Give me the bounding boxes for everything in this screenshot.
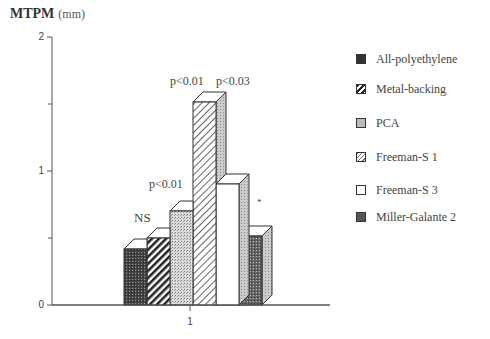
annotation-pca: p<0.01	[149, 177, 183, 192]
legend-item-miller-galante-2: Miller-Galante 2	[356, 209, 456, 223]
swatch-dark-dots-icon	[356, 54, 366, 64]
bar-all-polyethylene	[124, 239, 147, 305]
legend-item-freeman-s3: Freeman-S 3	[356, 182, 438, 196]
annotation-ns: NS	[134, 210, 151, 226]
annotation-fs1: p<0.01	[170, 74, 204, 89]
annotation-fs3: p<0.03	[216, 74, 250, 89]
bar-freeman-s3	[216, 174, 249, 305]
legend-item-freeman-s1: Freeman-S 1	[356, 149, 438, 163]
swatch-medium-dots-icon	[356, 212, 366, 222]
swatch-light-dots-icon	[356, 118, 366, 128]
swatch-hatch-dark-icon	[356, 84, 366, 94]
legend-item-all-polyethylene: All-polyethylene	[356, 51, 457, 65]
bar-pca	[170, 201, 193, 305]
annotation-mg: *	[257, 197, 262, 207]
legend-item-metal-backing: Metal-backing	[356, 81, 446, 95]
bar-metal-backing	[147, 228, 170, 305]
legend-item-pca: PCA	[356, 115, 399, 129]
swatch-white-icon	[356, 185, 366, 195]
swatch-hatch-light-icon	[356, 152, 366, 162]
